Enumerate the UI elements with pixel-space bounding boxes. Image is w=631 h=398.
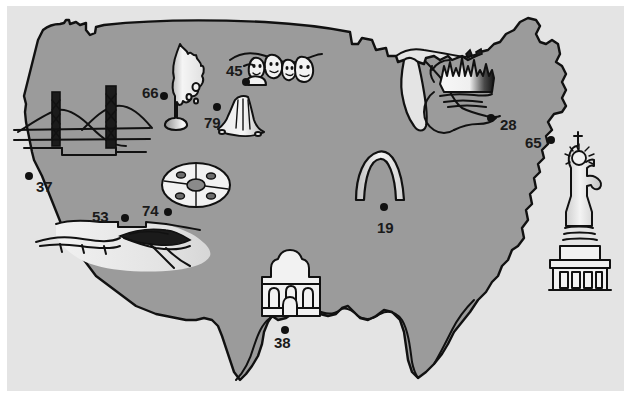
marker-74-dot[interactable] [164, 208, 172, 216]
marker-65-label: 65 [525, 134, 542, 151]
statue-of-liberty-icon [549, 132, 611, 290]
marker-65-dot[interactable] [547, 136, 555, 144]
marker-66-label: 66 [142, 84, 159, 101]
marker-66-dot[interactable] [160, 92, 168, 100]
marker-65[interactable]: 65 [525, 134, 555, 151]
marker-45-label: 45 [226, 62, 243, 79]
marker-53-label: 53 [92, 208, 109, 225]
marker-19-dot[interactable] [380, 203, 388, 211]
marker-79-dot[interactable] [213, 103, 221, 111]
lake-superior-detail [396, 49, 478, 57]
marker-37-label: 37 [36, 178, 53, 195]
rushmore-face-jefferson [265, 55, 282, 78]
map-figure: 66457928653719745338 [0, 0, 631, 398]
map-illustration: 66457928653719745338 [0, 0, 631, 398]
marker-38-label: 38 [274, 334, 291, 351]
marker-45-dot[interactable] [242, 78, 250, 86]
marker-19-label: 19 [377, 219, 394, 236]
marker-28-dot[interactable] [487, 114, 495, 122]
marker-38[interactable]: 38 [274, 326, 291, 351]
crater-icon [162, 163, 230, 207]
rushmore-face-lincoln [295, 57, 313, 82]
marker-74-label: 74 [142, 202, 159, 219]
marker-53-dot[interactable] [121, 214, 129, 222]
marker-28-label: 28 [500, 116, 517, 133]
marker-38-dot[interactable] [281, 326, 289, 334]
rushmore-face-washington [247, 58, 266, 85]
marker-79-label: 79 [204, 114, 221, 131]
marker-37-dot[interactable] [25, 172, 33, 180]
